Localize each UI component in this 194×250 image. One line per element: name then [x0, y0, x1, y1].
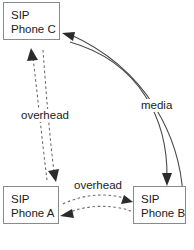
edge-media-b-to-c [62, 32, 183, 196]
edge-label-overhead-bottom: overhead [72, 179, 124, 192]
node-phone-b-line1: SIP [141, 192, 185, 206]
edge-overhead-a-to-b [63, 195, 133, 204]
overhead-a-to-c-arrowhead [27, 48, 38, 61]
node-phone-c-line1: SIP [11, 8, 59, 22]
node-phone-a[interactable]: SIP Phone A [3, 186, 59, 224]
media-b-to-c-arrowhead [62, 32, 75, 41]
media-b-to-c-path [69, 34, 183, 196]
overhead-a-to-b-path [63, 195, 126, 204]
overhead-b-to-a-arrowhead [60, 209, 74, 218]
overhead-c-to-a-arrowhead [48, 169, 59, 182]
node-phone-c-line2: Phone C [11, 22, 59, 36]
edge-label-media: media [139, 99, 174, 112]
node-phone-a-line1: SIP [11, 192, 58, 206]
node-phone-a-line2: Phone A [11, 206, 58, 220]
media-c-to-b-arrowhead [162, 173, 172, 186]
node-phone-c[interactable]: SIP Phone C [3, 2, 60, 40]
edge-label-overhead-left: overhead [19, 109, 71, 122]
edge-media-c-to-b [70, 42, 172, 186]
node-phone-b[interactable]: SIP Phone B [133, 186, 186, 224]
diagram-canvas: SIP Phone C SIP Phone A SIP Phone B over… [0, 0, 194, 250]
edge-overhead-b-to-a [60, 206, 131, 218]
overhead-b-to-a-path [68, 206, 131, 213]
node-phone-b-line2: Phone B [141, 206, 185, 220]
overhead-a-to-b-arrowhead [121, 195, 133, 204]
